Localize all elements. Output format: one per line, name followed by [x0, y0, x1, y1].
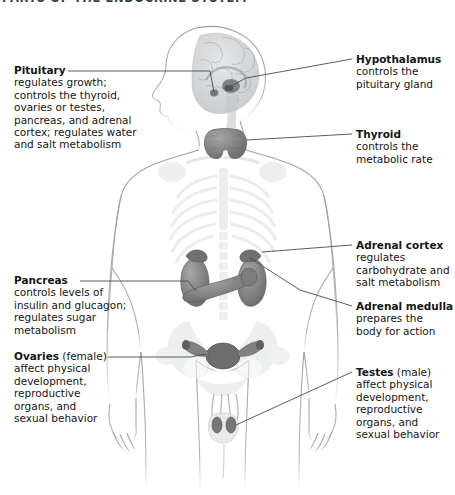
endocrine-system-figure: PARTS OF THE ENDOCRINE SYSTEM — [0, 0, 455, 495]
callout-testes-line-0: affect physical — [356, 378, 439, 390]
callout-testes-line-2: reproductive — [356, 403, 439, 415]
callout-testes-line-1: development, — [356, 391, 439, 403]
callout-pituitary-heading: Pituitary — [14, 64, 137, 76]
callout-thyroid-line-0: controls the — [356, 140, 433, 152]
callout-pituitary-name: Pituitary — [14, 64, 66, 76]
callout-hypothalamus-line-0: controls the — [356, 65, 441, 77]
callout-ovaries-line-1: development, — [14, 375, 107, 387]
callout-thyroid-line-1: metabolic rate — [356, 153, 433, 165]
thyroid-organ — [204, 129, 246, 159]
testis-right — [226, 417, 236, 433]
callout-testes-line-3: organs, and — [356, 416, 439, 428]
callout-pituitary-line-5: and salt metabolism — [14, 138, 137, 150]
callout-pancreas-name: Pancreas — [14, 274, 68, 286]
callout-ovaries-line-0: affect physical — [14, 362, 107, 374]
callout-pituitary-line-0: regulates growth; — [14, 76, 137, 88]
callout-adrenal-cortex-line-1: carbohydrate and — [356, 264, 450, 276]
callout-adrenal-cortex-line-2: salt metabolism — [356, 276, 450, 288]
callout-pancreas-line-2: regulates sugar — [14, 311, 126, 323]
callout-ovaries-line-4: sexual behavior — [14, 412, 107, 424]
callout-testes-qualifier: (male) — [394, 366, 432, 378]
callout-thyroid: Thyroid controls the metabolic rate — [356, 128, 433, 165]
callout-hypothalamus-name: Hypothalamus — [356, 53, 441, 65]
callout-adrenal-cortex-name: Adrenal cortex — [356, 239, 443, 251]
callout-pituitary-line-2: ovaries or testes, — [14, 101, 137, 113]
callout-pituitary-line-4: cortex; regulates water — [14, 126, 137, 138]
callout-adrenal-medulla: Adrenal medulla prepares the body for ac… — [356, 300, 453, 337]
callout-ovaries-line-2: reproductive — [14, 387, 107, 399]
leader-testes — [236, 372, 352, 425]
ovary-right — [256, 340, 264, 350]
testes-organ-group — [209, 394, 239, 478]
leader-thyroid — [246, 134, 352, 140]
callout-testes: Testes (male) affect physical developmen… — [356, 366, 439, 440]
callout-testes-line-4: sexual behavior — [356, 428, 439, 440]
callout-adrenal-medulla-name: Adrenal medulla — [356, 300, 453, 312]
leader-adrenal-cortex — [262, 245, 352, 252]
callout-pituitary-line-3: pancreas, and adrenal — [14, 114, 137, 126]
uterus — [206, 343, 240, 369]
callout-ovaries-line-3: organs, and — [14, 400, 107, 412]
callout-pancreas-line-3: metabolism — [14, 324, 126, 336]
callout-adrenal-medulla-line-1: body for action — [356, 325, 453, 337]
callout-pituitary-line-1: controls the thyroid, — [14, 89, 137, 101]
callout-pancreas-heading: Pancreas — [14, 274, 126, 286]
callout-hypothalamus: Hypothalamus controls the pituitary glan… — [356, 53, 441, 90]
callout-testes-heading: Testes (male) — [356, 366, 439, 378]
callout-ovaries: Ovaries (female) affect physical develop… — [14, 350, 107, 424]
callout-hypothalamus-line-1: pituitary gland — [356, 78, 441, 90]
callout-adrenal-medulla-heading: Adrenal medulla — [356, 300, 453, 312]
callout-pancreas-line-1: insulin and glucagon; — [14, 299, 126, 311]
callout-adrenal-cortex-heading: Adrenal cortex — [356, 239, 450, 251]
testis-left — [212, 417, 222, 433]
brain — [192, 33, 259, 128]
callout-pancreas: Pancreas controls levels of insulin and … — [14, 274, 126, 336]
callout-adrenal-cortex-line-0: regulates — [356, 251, 450, 263]
callout-pituitary: Pituitary regulates growth; controls the… — [14, 64, 137, 151]
callout-ovaries-heading: Ovaries (female) — [14, 350, 107, 362]
callout-hypothalamus-heading: Hypothalamus — [356, 53, 441, 65]
callout-testes-name: Testes — [356, 366, 394, 378]
callout-pancreas-line-0: controls levels of — [14, 286, 126, 298]
callout-adrenal-cortex: Adrenal cortex regulates carbohydrate an… — [356, 239, 450, 289]
callout-ovaries-name: Ovaries — [14, 350, 59, 362]
callout-thyroid-name: Thyroid — [356, 128, 401, 140]
callout-ovaries-qualifier: (female) — [59, 350, 107, 362]
callout-thyroid-heading: Thyroid — [356, 128, 433, 140]
ovary-left — [182, 340, 190, 350]
callout-adrenal-medulla-line-0: prepares the — [356, 312, 453, 324]
